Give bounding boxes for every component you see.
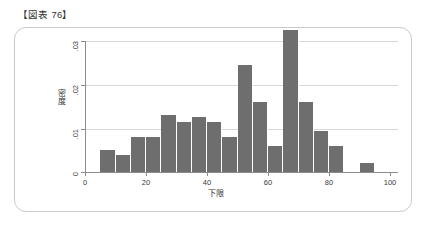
y-tick-mark-002	[81, 85, 86, 86]
x-tick-mark-40	[207, 172, 208, 176]
x-tick-label-0: 0	[83, 178, 87, 187]
bar-bin-55	[253, 102, 268, 172]
bar-bin-25	[161, 115, 176, 172]
x-tick-mark-0	[85, 172, 86, 176]
y-tick-mark-001	[81, 129, 86, 130]
bar-bin-40	[207, 122, 222, 172]
bar-bin-15	[131, 137, 146, 172]
bar-bin-20	[146, 137, 161, 172]
page-root: 【図表 76】 .03 .02 .01 0 密度	[0, 0, 426, 233]
y-tick-label-001-text: .01	[71, 129, 81, 139]
bar-bin-70	[299, 102, 314, 172]
bar-bin-75	[314, 131, 329, 173]
bar-bin-45	[222, 137, 237, 172]
bar-bin-90	[360, 163, 375, 172]
y-tick-mark-003	[81, 41, 86, 42]
chart-card: .03 .02 .01 0 密度	[14, 27, 412, 212]
bar-bin-5	[100, 150, 115, 172]
x-tick-mark-20	[146, 172, 147, 176]
x-tick-label-40: 40	[203, 178, 211, 187]
y-tick-label-003-text: .03	[71, 41, 81, 51]
y-axis-title: 密度	[56, 89, 65, 105]
x-axis-line	[85, 172, 398, 173]
x-tick-label-20: 20	[142, 178, 150, 187]
x-tick-mark-60	[268, 172, 269, 176]
histogram-plot-area: .03 .02 .01 0 密度	[85, 41, 405, 172]
bar-bin-80	[329, 146, 344, 172]
bar-bin-30	[177, 122, 192, 172]
x-tick-mark-80	[329, 172, 330, 176]
x-axis-title: 下限	[208, 189, 224, 199]
bar-bin-35	[192, 117, 207, 172]
x-tick-label-60: 60	[264, 178, 272, 187]
x-tick-mark-100	[390, 172, 391, 176]
y-tick-label-002-text: .02	[71, 85, 81, 95]
figure-caption: 【図表 76】	[18, 9, 73, 21]
y-tick-label-000-text: 0	[71, 172, 81, 176]
bar-bin-60	[268, 146, 283, 172]
bar-bin-65	[283, 30, 298, 172]
bar-bin-10	[116, 155, 131, 173]
bar-bin-50	[238, 65, 253, 172]
gridline-y-003	[86, 41, 398, 42]
x-tick-label-100: 100	[384, 178, 397, 187]
y-axis-line	[85, 41, 86, 172]
x-tick-label-80: 80	[325, 178, 333, 187]
